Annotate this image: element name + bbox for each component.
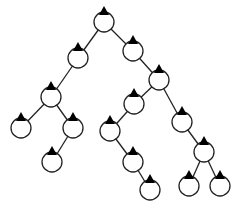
triangle-marker-icon: [199, 136, 209, 145]
triangle-marker-icon: [154, 64, 164, 73]
tree-node: [194, 136, 214, 162]
triangle-marker-icon: [128, 35, 138, 44]
tree-node: [124, 88, 144, 114]
tree-node: [68, 42, 88, 68]
tree-node: [149, 64, 169, 90]
triangle-marker-icon: [46, 81, 56, 90]
triangle-marker-icon: [68, 112, 78, 121]
triangle-marker-icon: [177, 106, 187, 115]
triangle-marker-icon: [129, 88, 139, 97]
tree-diagram: [0, 0, 240, 208]
tree-node: [179, 170, 199, 196]
triangle-marker-icon: [215, 170, 225, 179]
triangle-marker-icon: [47, 146, 57, 155]
tree-node: [123, 146, 143, 172]
tree-node: [94, 6, 114, 32]
tree-node: [210, 170, 230, 196]
tree-node: [63, 112, 83, 138]
triangle-marker-icon: [128, 146, 138, 155]
triangle-marker-icon: [184, 170, 194, 179]
triangle-marker-icon: [99, 6, 109, 15]
tree-node: [100, 115, 120, 141]
triangle-marker-icon: [73, 42, 83, 51]
triangle-marker-icon: [105, 115, 115, 124]
triangle-marker-icon: [16, 112, 26, 121]
tree-nodes: [11, 6, 230, 200]
tree-node: [11, 112, 31, 138]
triangle-marker-icon: [145, 174, 155, 183]
tree-node: [41, 81, 61, 107]
tree-node: [123, 35, 143, 61]
